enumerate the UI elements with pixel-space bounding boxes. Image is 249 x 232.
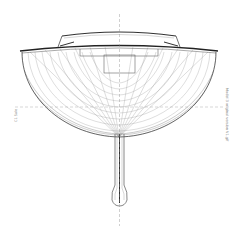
- left-dimension-label: C1 Sale: [14, 109, 18, 122]
- cabin-house: [58, 32, 180, 47]
- hull-drawing: [0, 0, 249, 232]
- drawing-title-label: Model 3 original version V1.gif: [225, 88, 229, 141]
- hull-section-lines: [22, 46, 216, 137]
- hull-outline: [22, 52, 216, 137]
